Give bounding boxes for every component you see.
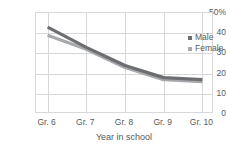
legend: Male Female [188,32,223,54]
legend-item-male: Male [188,32,223,43]
legend-label-female: Female [195,43,223,54]
y-axis-title-cropped: % [0,61,12,83]
x-axis-title: Year in school [35,132,213,142]
x-axis-tick-label: Gr. 6 [27,117,67,127]
x-axis-tick-label: Gr. 8 [104,117,144,127]
series-line-male [48,27,203,80]
legend-marker-male-icon [188,36,192,40]
series-lines [36,13,214,114]
legend-label-male: Male [195,32,213,43]
legend-item-female: Female [188,43,223,54]
legend-marker-female-icon [188,47,192,51]
x-axis-tick-label: Gr. 7 [65,117,105,127]
x-axis-tick-label: Gr. 9 [143,117,183,127]
series-line-female [48,35,203,81]
line-chart: % 50%403020100 Male Female Gr. 6Gr. 7Gr.… [0,0,226,150]
plot-area: Male Female [35,12,213,113]
x-axis-tick-label: Gr. 10 [181,117,221,127]
